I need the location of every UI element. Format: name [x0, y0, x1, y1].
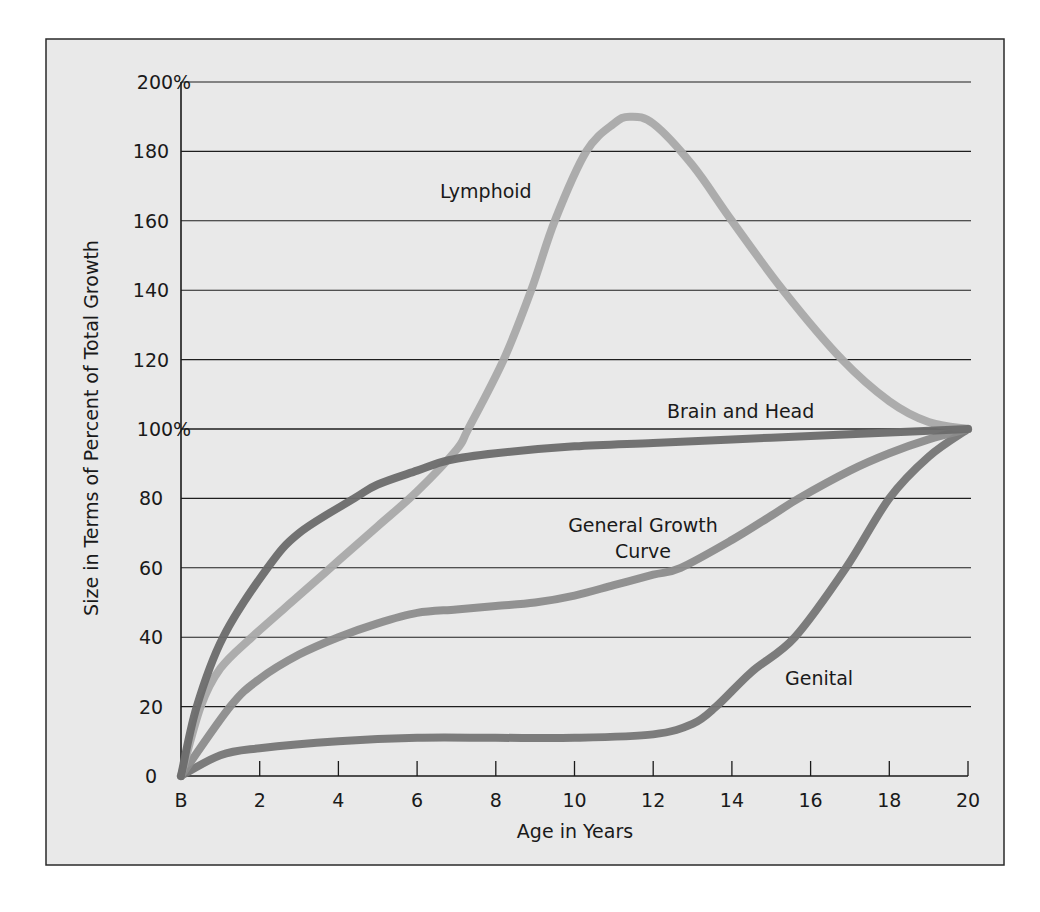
y-tick-label: 80 — [139, 487, 163, 509]
x-tick-label: B — [174, 789, 187, 811]
y-axis-label: Size in Terms of Percent of Total Growth — [80, 240, 102, 616]
label-general-growth-curve: Curve — [615, 540, 671, 562]
y-tick-label: 160 — [133, 210, 169, 232]
x-tick-label: 12 — [641, 789, 665, 811]
y-tick-label: 120 — [133, 349, 169, 371]
x-axis-label: Age in Years — [517, 820, 633, 842]
chart-svg: 020406080100%120140160180200% B246810121… — [0, 0, 1040, 912]
x-tick-label: 8 — [490, 789, 502, 811]
x-tick-label: 2 — [254, 789, 266, 811]
y-tick-label: 40 — [139, 626, 163, 648]
x-tick-label: 6 — [411, 789, 423, 811]
label-genital: Genital — [785, 667, 853, 689]
x-tick-label: 20 — [956, 789, 980, 811]
y-tick-label: 60 — [139, 557, 163, 579]
x-tick-label: 14 — [720, 789, 744, 811]
x-tick-label: 10 — [562, 789, 586, 811]
label-general-growth: General Growth — [568, 514, 718, 536]
x-tick-label: 4 — [332, 789, 344, 811]
y-tick-label: 100% — [137, 418, 191, 440]
y-tick-label: 180 — [133, 140, 169, 162]
growth-curves-figure: 020406080100%120140160180200% B246810121… — [0, 0, 1040, 912]
x-tick-label: 16 — [799, 789, 823, 811]
label-lymphoid: Lymphoid — [440, 180, 532, 202]
label-brain-and-head: Brain and Head — [667, 400, 814, 422]
y-tick-label: 20 — [139, 696, 163, 718]
y-tick-label: 140 — [133, 279, 169, 301]
y-tick-label: 200% — [137, 71, 191, 93]
y-tick-label: 0 — [145, 765, 157, 787]
x-tick-label: 18 — [877, 789, 901, 811]
